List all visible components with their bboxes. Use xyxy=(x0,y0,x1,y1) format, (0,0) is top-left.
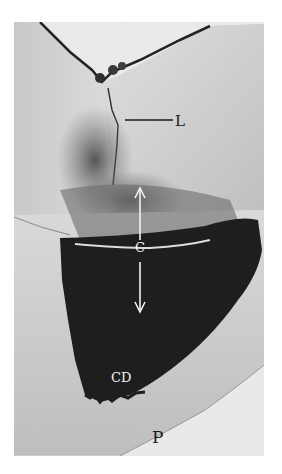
label-C: C xyxy=(135,241,145,254)
micrograph-drawing xyxy=(14,22,264,456)
label-CD: CD xyxy=(111,371,131,384)
micrograph xyxy=(14,22,264,456)
label-P: P xyxy=(152,429,163,446)
label-L: L xyxy=(175,114,185,129)
